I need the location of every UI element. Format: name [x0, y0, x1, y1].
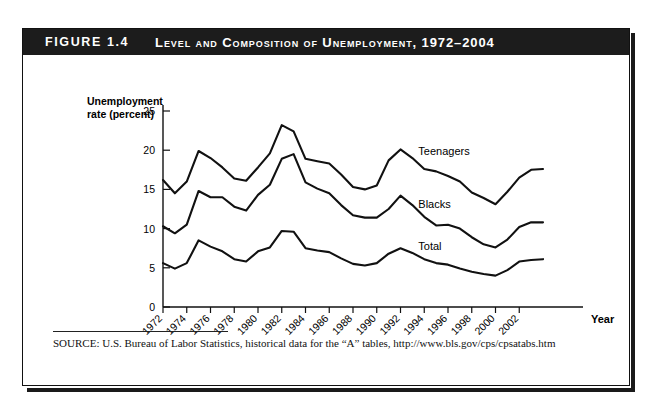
source-note: SOURCE: U.S. Bureau of Labor Statistics,…: [53, 337, 613, 349]
source-divider: [53, 331, 228, 332]
y-tick-label: 20: [143, 144, 155, 156]
series-line: [163, 125, 543, 204]
figure-title-bar: FIGURE 1.4 Level and Composition of Unem…: [23, 29, 629, 55]
x-tick-label: 1990: [353, 312, 378, 337]
series-label: Blacks: [418, 198, 451, 210]
figure-title: Level and Composition of Unemployment, 1…: [155, 35, 495, 50]
x-tick-label: 1986: [306, 312, 331, 337]
figure-number-label: FIGURE 1.4: [45, 35, 129, 49]
series-label: Total: [418, 240, 441, 252]
x-tick-label: 1988: [329, 312, 354, 337]
x-tick-label: 1980: [234, 312, 259, 337]
x-tick-label: 1992: [377, 312, 402, 337]
y-tick-label: 5: [149, 262, 155, 274]
y-tick-label: 0: [149, 301, 155, 313]
x-tick-label: 1994: [401, 312, 426, 337]
series-line: [163, 154, 543, 247]
unemployment-line-chart: 0510152025197219741976197819801982198419…: [23, 55, 631, 355]
series-line: [163, 231, 543, 276]
y-tick-label: 15: [143, 183, 155, 195]
y-tick-label: 10: [143, 223, 155, 235]
figure-container: FIGURE 1.4 Level and Composition of Unem…: [22, 28, 630, 386]
x-tick-label: 1984: [282, 312, 307, 337]
figure-frame-shadow-right: [631, 33, 635, 390]
x-tick-label: 1974: [163, 312, 188, 337]
y-tick-label: 25: [143, 105, 155, 117]
figure-frame-shadow-bottom: [27, 388, 635, 392]
x-axis-title: Year: [591, 313, 615, 325]
x-tick-label: 2002: [496, 312, 521, 337]
x-tick-label: 1982: [258, 312, 283, 337]
x-tick-label: 1976: [187, 312, 212, 337]
x-tick-label: 1996: [424, 312, 449, 337]
x-tick-label: 2000: [472, 312, 497, 337]
x-tick-label: 1998: [448, 312, 473, 337]
x-tick-label: 1972: [139, 312, 164, 337]
x-tick-label: 1978: [211, 312, 236, 337]
series-label: Teenagers: [418, 145, 470, 157]
